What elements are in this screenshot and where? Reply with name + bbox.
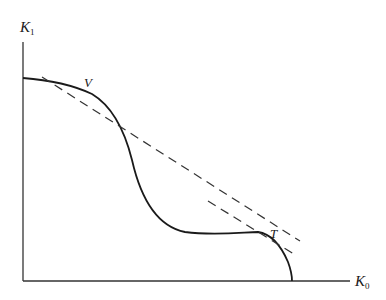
frontier-diagram (0, 0, 386, 300)
y-axis-label: K1 (20, 20, 35, 37)
point-t-label: T (270, 227, 277, 240)
tangent-line-t (208, 201, 297, 256)
point-v-label: V (84, 76, 92, 89)
x-axis-label: K0 (355, 274, 370, 291)
frontier-curve (23, 78, 292, 281)
tangent-line-v (42, 77, 300, 241)
